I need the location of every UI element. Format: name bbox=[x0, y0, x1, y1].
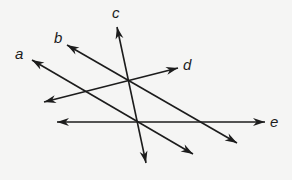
line-e: e bbox=[57, 113, 278, 130]
line-c-label: c bbox=[112, 4, 120, 21]
line-b-label: b bbox=[54, 29, 62, 46]
line-a-arrow-start bbox=[32, 60, 44, 70]
lines-diagram: a b c d e bbox=[0, 0, 292, 180]
line-a-arrow-end bbox=[181, 145, 193, 155]
line-b-arrow-end bbox=[225, 134, 237, 144]
line-b-stroke bbox=[67, 45, 237, 143]
line-e-label: e bbox=[270, 113, 278, 130]
line-a-label: a bbox=[15, 45, 23, 62]
line-a-stroke bbox=[32, 60, 193, 154]
line-a: a bbox=[15, 45, 193, 154]
line-c-stroke bbox=[117, 27, 146, 163]
line-b-arrow-start bbox=[67, 45, 79, 55]
line-d-label: d bbox=[183, 56, 192, 73]
